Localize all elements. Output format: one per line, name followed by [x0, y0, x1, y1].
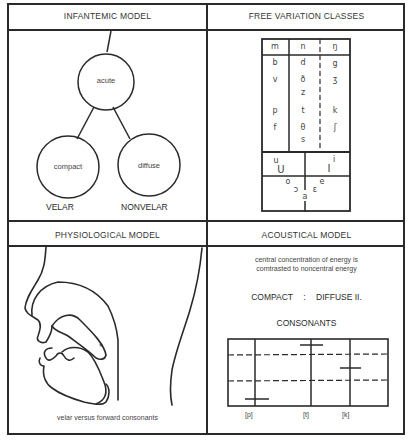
acoustic-chart — [0, 0, 413, 444]
chart-label-p: [p] — [245, 411, 253, 418]
chart-label-t: [t] — [303, 411, 309, 418]
chart-label-k: [k] — [342, 411, 349, 418]
